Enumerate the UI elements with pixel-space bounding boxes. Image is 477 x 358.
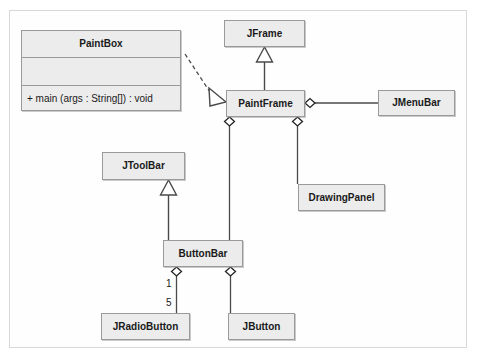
class-name-compartment-paintbox: PaintBox [22, 31, 180, 57]
edge-buttonbar-jbutton [226, 267, 236, 313]
class-operation-main: + main (args : String[]) : void [22, 93, 153, 104]
class-box-jradiobutton[interactable]: JRadioButton [101, 313, 190, 340]
uml-diagram-canvas: PaintBox + main (args : String[]) : void… [0, 0, 477, 358]
class-name-jradiobutton: JRadioButton [102, 314, 189, 339]
edge-paintframe-jframe [257, 47, 273, 90]
hollow-triangle-icon [209, 88, 226, 106]
class-box-jbutton[interactable]: JButton [228, 313, 295, 340]
hollow-diamond-icon [305, 99, 315, 108]
class-box-paintbox[interactable]: PaintBox + main (args : String[]) : void [21, 30, 181, 111]
class-box-paintframe[interactable]: PaintFrame [226, 90, 305, 117]
hollow-diamond-icon [226, 267, 236, 276]
class-box-jmenubar[interactable]: JMenuBar [378, 90, 455, 116]
class-box-jframe[interactable]: JFrame [224, 20, 305, 47]
hollow-triangle-icon [257, 47, 273, 62]
hollow-triangle-icon [161, 180, 177, 195]
edge-paintframe-drawingpanel [293, 117, 303, 184]
class-operations-compartment-paintbox: + main (args : String[]) : void [22, 85, 180, 110]
class-attributes-compartment-paintbox [22, 57, 180, 85]
hollow-diamond-icon [172, 267, 182, 276]
class-name-jtoolbar: JToolBar [103, 153, 184, 179]
class-box-buttonbar[interactable]: ButtonBar [163, 240, 243, 267]
edge-buttonbar-jtoolbar [161, 180, 177, 240]
multiplicity-jradiobutton-end: 5 [166, 298, 172, 308]
class-name-paintframe: PaintFrame [227, 91, 304, 116]
class-name-jmenubar: JMenuBar [379, 91, 454, 115]
class-box-jtoolbar[interactable]: JToolBar [102, 152, 185, 180]
hollow-diamond-icon [225, 117, 235, 126]
hollow-diamond-icon [293, 117, 303, 126]
class-name-paintbox: PaintBox [22, 31, 180, 57]
class-box-drawingpanel[interactable]: DrawingPanel [298, 184, 385, 211]
multiplicity-buttonbar-end: 1 [166, 279, 172, 289]
edge-buttonbar-jradiobutton [172, 267, 182, 313]
class-name-drawingpanel: DrawingPanel [299, 185, 384, 210]
class-name-jframe: JFrame [225, 21, 304, 46]
class-name-jbutton: JButton [229, 314, 294, 339]
edge-paintframe-jmenubar [305, 99, 378, 108]
class-name-buttonbar: ButtonBar [164, 241, 242, 266]
edge-paintframe-buttonbar [225, 117, 235, 240]
edge-paintbox-paintframe [185, 54, 226, 106]
